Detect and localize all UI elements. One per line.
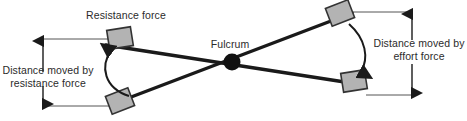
lever-diagram-figure: Resistance force Fulcrum Distance moved … [0, 0, 467, 121]
block-resistance-raised [107, 27, 134, 50]
label-distance-moved-by-resistance-force: Distance moved by resistance force [0, 64, 96, 89]
arc-effort-rotation [349, 24, 365, 72]
label-distance-moved-by-effort-force: Distance moved by effort force [371, 37, 467, 62]
label-fulcrum: Fulcrum [198, 38, 262, 51]
label-resistance-force: Resistance force [70, 9, 182, 22]
block-effort-lowered [341, 70, 368, 93]
fulcrum-dot [224, 54, 241, 71]
